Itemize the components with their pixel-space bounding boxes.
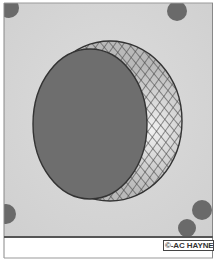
marker-bottom-right-icon [178,219,196,237]
copyright-credit-label: ©-AC HAYNES [163,240,214,251]
marker-right-lower-icon [192,200,212,220]
dark-disc-face [33,49,147,199]
diagram-figure: ©-AC HAYNES [0,0,217,262]
marker-top-right-icon [167,1,187,21]
illustration-canvas [0,0,217,262]
